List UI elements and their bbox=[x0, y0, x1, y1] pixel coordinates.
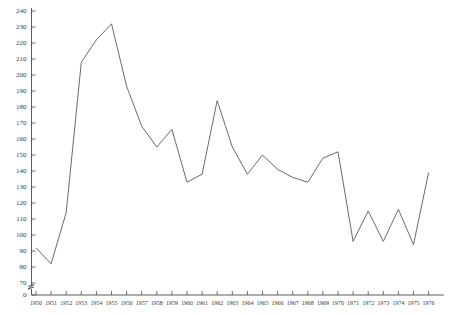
y-axis-tick-label: 120 bbox=[16, 199, 27, 207]
y-axis-tick-label: 200 bbox=[16, 71, 27, 79]
x-axis-tick-label: 1954 bbox=[90, 300, 102, 306]
x-axis-tick-label: 1950 bbox=[30, 300, 42, 306]
x-axis-tick-label: 1959 bbox=[166, 300, 178, 306]
y-axis-tick-label: 190 bbox=[16, 87, 27, 95]
axis-break-marker bbox=[28, 285, 34, 290]
y-axis-tick-label: 130 bbox=[16, 183, 27, 191]
y-axis-tick-label: 100 bbox=[16, 231, 27, 239]
x-axis-tick-label: 1972 bbox=[362, 300, 374, 306]
y-axis-tick-label: 210 bbox=[16, 55, 27, 63]
x-axis-tick-label: 1962 bbox=[211, 300, 223, 306]
data-series-line bbox=[36, 24, 429, 264]
x-axis-tick-label: 1976 bbox=[423, 300, 435, 306]
x-axis-tick-label: 1968 bbox=[302, 300, 314, 306]
y-axis-tick-label: 240 bbox=[16, 7, 27, 15]
y-axis-tick-label: 90 bbox=[20, 247, 28, 255]
y-axis-tick-label: 140 bbox=[16, 167, 27, 175]
x-axis-tick-label: 1966 bbox=[272, 300, 284, 306]
x-axis-tick-label: 1975 bbox=[408, 300, 420, 306]
line-chart: 0708090100110120130140150160170180190200… bbox=[0, 0, 449, 315]
x-axis-tick-label: 1952 bbox=[60, 300, 72, 306]
chart-canvas: 0708090100110120130140150160170180190200… bbox=[0, 0, 449, 315]
x-axis-tick-label: 1957 bbox=[136, 300, 148, 306]
x-axis-tick-label: 1965 bbox=[257, 300, 269, 306]
y-axis-tick-label: 110 bbox=[16, 215, 27, 223]
y-axis-tick-label: 180 bbox=[16, 103, 27, 111]
y-axis-tick-label: 150 bbox=[16, 151, 27, 159]
y-axis-tick-label: 230 bbox=[16, 23, 27, 31]
x-axis-tick-label: 1973 bbox=[377, 300, 389, 306]
x-axis-tick-label: 1974 bbox=[392, 300, 404, 306]
x-axis-tick-label: 1955 bbox=[106, 300, 118, 306]
y-axis-tick-label: 70 bbox=[20, 279, 28, 287]
x-axis-tick-label: 1958 bbox=[151, 300, 163, 306]
x-axis-tick-label: 1967 bbox=[287, 300, 299, 306]
x-axis-tick-label: 1970 bbox=[332, 300, 344, 306]
y-axis-tick-label: 80 bbox=[20, 263, 28, 271]
y-axis-tick-label: 170 bbox=[16, 119, 27, 127]
x-axis-tick-label: 1971 bbox=[347, 300, 359, 306]
x-axis-tick-label: 1969 bbox=[317, 300, 329, 306]
x-axis-tick-label: 1951 bbox=[45, 300, 57, 306]
x-axis-tick-label: 1953 bbox=[75, 300, 87, 306]
x-axis-tick-label: 1956 bbox=[121, 300, 133, 306]
x-axis-tick-label: 1961 bbox=[196, 300, 208, 306]
y-axis-tick-label: 160 bbox=[16, 135, 27, 143]
y-axis-tick-label: 0 bbox=[23, 291, 27, 299]
x-axis-tick-label: 1963 bbox=[226, 300, 238, 306]
x-axis-tick-label: 1964 bbox=[241, 300, 253, 306]
x-axis-tick-label: 1960 bbox=[181, 300, 193, 306]
y-axis-tick-label: 220 bbox=[16, 39, 27, 47]
